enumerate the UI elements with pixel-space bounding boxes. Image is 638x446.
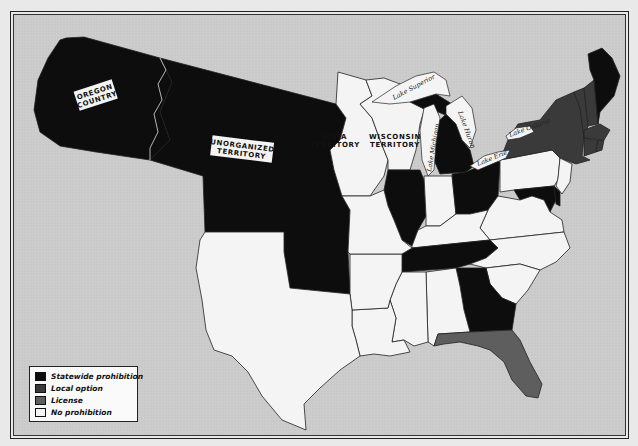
legend-item-no-prohibition: No prohibition — [35, 406, 132, 418]
legend-label: No prohibition — [51, 408, 112, 417]
legend-item-local-option: Local option — [35, 382, 132, 394]
svg-text:WISCONSIN: WISCONSIN — [369, 133, 421, 141]
legend-swatch-icon — [35, 408, 46, 417]
legend-swatch-icon — [35, 384, 46, 393]
legend-item-license: License — [35, 394, 132, 406]
svg-text:TERRITORY: TERRITORY — [370, 141, 420, 149]
legend-label: Statewide prohibition — [51, 372, 143, 381]
map-legend: Statewide prohibition Local option Licen… — [29, 366, 138, 422]
label-wisconsin-territory: WISCONSIN TERRITORY — [369, 133, 421, 149]
legend-item-statewide-prohibition: Statewide prohibition — [35, 370, 132, 382]
svg-text:IOWA: IOWA — [323, 133, 347, 141]
legend-label: License — [51, 396, 83, 405]
svg-text:TERRITORY: TERRITORY — [310, 141, 360, 149]
legend-swatch-icon — [35, 396, 46, 405]
legend-label: Local option — [51, 384, 103, 393]
legend-swatch-icon — [35, 372, 46, 381]
